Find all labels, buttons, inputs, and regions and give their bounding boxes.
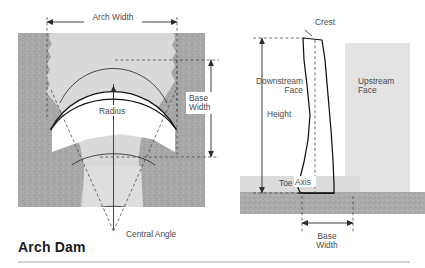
crest-label: Crest [315, 17, 336, 27]
arch-dam-figure: Arch Width Base Width Radius Central Ang… [0, 0, 425, 268]
base-width-label-line2: Width [189, 102, 211, 112]
axis-label: Axis [295, 177, 311, 187]
radius-label: Radius [99, 106, 125, 116]
upstream-face-label-line2: Face [358, 85, 377, 95]
upstream-reservoir [345, 43, 410, 193]
arch-width-label: Arch Width [93, 12, 134, 22]
central-angle-label: Central Angle [126, 229, 177, 239]
foundation-ground [240, 192, 425, 214]
downstream-face-label-line2: Face [284, 85, 303, 95]
upper-valley-shade [50, 33, 174, 40]
toe-label: Toe [279, 178, 293, 188]
height-label: Height [267, 109, 292, 119]
plan-view: Arch Width Base Width Radius Central Ang… [18, 12, 224, 239]
figure-title: Arch Dam [18, 239, 86, 255]
section-base-width-label-line2: Width [316, 240, 338, 250]
